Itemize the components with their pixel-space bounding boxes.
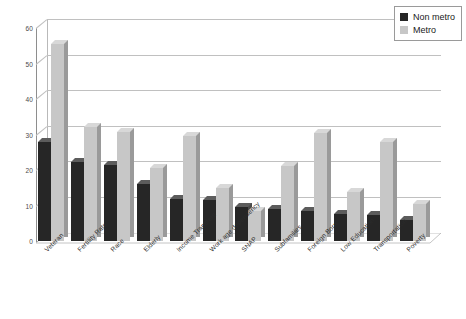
legend-item: Metro <box>400 23 455 36</box>
x-axis-tick-label: Subfamilies <box>273 223 303 253</box>
x-axis-tick-label: Elderly <box>142 233 162 253</box>
legend-swatch-icon <box>400 13 408 21</box>
x-axis-tick-label: Poverty <box>405 232 426 253</box>
x-axis-tick-label: Foreign Born <box>306 220 339 253</box>
bar-chart: 0102030405060 VeteranFertility RateRaceE… <box>0 0 466 319</box>
x-axis-tick-label: SNAP <box>240 235 258 253</box>
x-axis-tick-label: Fertility Rate <box>76 221 108 253</box>
legend-swatch-icon <box>400 26 408 34</box>
chart-legend: Non metroMetro <box>394 6 462 41</box>
x-axis-tick-label: Veteran <box>43 231 65 253</box>
x-axis-ticks: VeteranFertility RateRaceElderlyIncome T… <box>0 0 466 319</box>
x-axis-tick-label: Low Education <box>339 216 375 252</box>
legend-label: Non metro <box>413 12 455 22</box>
x-axis-tick-label: Race <box>109 237 125 253</box>
legend-item: Non metro <box>400 10 455 23</box>
legend-label: Metro <box>413 25 436 35</box>
x-axis-tick-label: Transportation <box>372 217 408 253</box>
